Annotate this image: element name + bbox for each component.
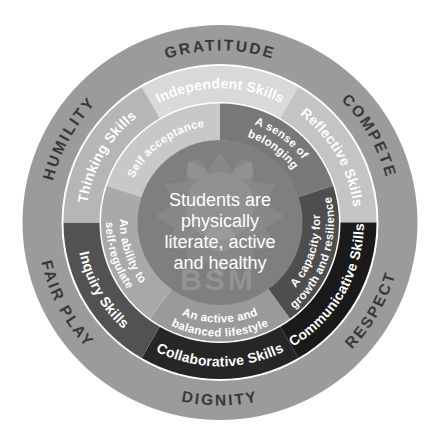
wheel-diagram: Students are physically literate, active… [0, 0, 435, 446]
center-statement-line-2: physically [181, 211, 259, 231]
bsm-watermark: BSM [180, 263, 256, 296]
center-statement-line-3: literate, active [164, 232, 275, 252]
center-group: Students are physically literate, active… [138, 140, 303, 305]
center-statement-line-1: Students are [169, 190, 271, 210]
physical-literacy-wheel: Students are physically literate, active… [0, 0, 435, 446]
